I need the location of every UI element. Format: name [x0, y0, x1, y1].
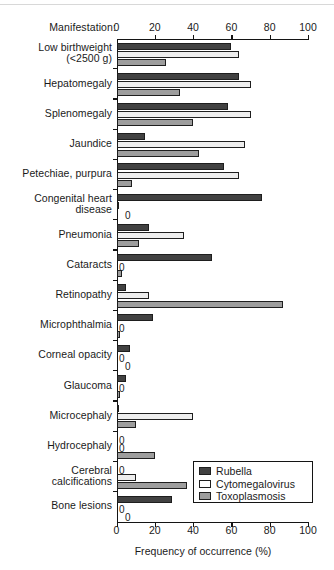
bar-rubella: [117, 496, 173, 503]
bar-toxo: [117, 59, 167, 66]
bottom-tick-mark-0: [117, 523, 118, 527]
top-tick-mark-20: [155, 35, 156, 39]
category-label: Pneumonia: [58, 229, 112, 241]
category-label: Microphthalmia: [40, 319, 112, 331]
category-label: Retinopathy: [55, 289, 112, 301]
zero-value-label: 0: [125, 513, 131, 523]
bar-rubella: [117, 375, 127, 382]
bar-rubella: [117, 163, 224, 170]
bottom-tick-mark-100: [308, 523, 309, 527]
bar-rubella: [117, 284, 127, 291]
top-tick-mark-100: [308, 35, 309, 39]
category-label: Congenital heart disease: [34, 193, 112, 216]
legend-swatch-cmv-icon: [199, 480, 211, 488]
group-separator-tick: [113, 219, 117, 220]
category-label: Cerebral calcifications: [52, 465, 112, 488]
bar-cmv: [117, 51, 240, 58]
group-separator-tick: [113, 189, 117, 190]
legend-item-cmv[interactable]: Cytomegalovirus: [199, 478, 312, 490]
bar-toxo: [117, 301, 284, 308]
bar-rubella: [117, 43, 232, 50]
bar-cmv: [117, 474, 136, 481]
top-axis-line: [117, 39, 310, 40]
category-label: Low birthweight (<2500 g): [38, 42, 112, 65]
bar-cmv: [117, 172, 240, 179]
top-tick-mark-80: [270, 35, 271, 39]
group-separator-tick: [113, 431, 117, 432]
legend-label: Toxoplasmosis: [216, 490, 286, 502]
category-label: Petechiae, purpura: [22, 168, 112, 180]
bottom-axis-line: [117, 522, 310, 523]
bar-rubella: [117, 103, 228, 110]
bar-chart: Manifestation: 020406080100 020406080100…: [0, 0, 334, 570]
group-separator-tick: [113, 461, 117, 462]
group-separator-tick: [113, 340, 117, 341]
top-tick-mark-60: [231, 35, 232, 39]
bar-toxo: [117, 270, 123, 277]
bar-rubella: [117, 314, 153, 321]
category-label: Cataracts: [67, 259, 112, 271]
category-label: Hydrocephaly: [47, 440, 112, 452]
x-axis-title-text: Frequency of occurrence (%): [135, 545, 272, 557]
bar-rubella: [117, 345, 130, 352]
bar-rubella: [117, 405, 119, 412]
bar-cmv: [117, 111, 251, 118]
group-separator-tick: [113, 98, 117, 99]
bottom-tick-mark-40: [193, 523, 194, 527]
bar-toxo: [117, 421, 136, 428]
bar-toxo: [117, 150, 199, 157]
bar-cmv: [117, 292, 150, 299]
bar-cmv: [117, 413, 194, 420]
bar-toxo: [117, 240, 140, 247]
bar-toxo: [117, 119, 194, 126]
bar-rubella: [117, 194, 263, 201]
group-separator-tick: [113, 68, 117, 69]
zero-value-label: 0: [119, 505, 125, 515]
bar-toxo: [117, 482, 188, 489]
legend-swatch-rubella-icon: [199, 467, 211, 475]
bar-rubella: [117, 254, 213, 261]
legend-label: Rubella: [216, 465, 252, 477]
category-label: Glaucoma: [64, 380, 112, 392]
category-label: Microcephaly: [50, 410, 112, 422]
bar-toxo: [117, 452, 155, 459]
group-separator-tick: [113, 249, 117, 250]
bar-rubella: [117, 224, 150, 231]
bar-cmv: [117, 232, 184, 239]
group-separator-tick: [113, 370, 117, 371]
category-label: Corneal opacity: [38, 349, 112, 361]
legend-item-rubella[interactable]: Rubella: [199, 465, 312, 477]
legend-item-toxo[interactable]: Toxoplasmosis: [199, 490, 312, 502]
bar-cmv: [117, 141, 245, 148]
bar-toxo: [117, 391, 121, 398]
group-separator-tick: [113, 491, 117, 492]
chart-legend: RubellaCytomegalovirusToxoplasmosis: [193, 461, 313, 503]
group-separator-tick: [113, 400, 117, 401]
bar-rubella: [117, 133, 146, 140]
bottom-tick-mark-20: [155, 523, 156, 527]
category-label: Bone lesions: [51, 500, 112, 512]
category-label: Splenomegaly: [45, 108, 112, 120]
x-axis-title: Frequency of occurrence (%): [0, 545, 334, 557]
zero-value-label: 0: [119, 354, 125, 364]
bar-rubella: [117, 73, 240, 80]
top-tick-mark-40: [193, 35, 194, 39]
zero-value-label: 0: [125, 362, 131, 372]
zero-value-label: 0: [125, 211, 131, 221]
group-separator-tick: [113, 159, 117, 160]
legend-swatch-toxo-icon: [199, 492, 211, 500]
category-label: Jaundice: [70, 138, 112, 150]
bar-toxo: [117, 180, 132, 187]
bar-cmv: [117, 81, 251, 88]
bar-toxo: [117, 331, 121, 338]
group-separator-tick: [113, 280, 117, 281]
group-separator-tick: [113, 310, 117, 311]
category-label: Hepatomegaly: [44, 78, 112, 90]
group-separator-tick: [113, 129, 117, 130]
bottom-tick-mark-80: [270, 523, 271, 527]
bottom-tick-mark-60: [231, 523, 232, 527]
bar-toxo: [117, 89, 180, 96]
legend-label: Cytomegalovirus: [216, 478, 295, 490]
bar-cmv: [117, 202, 119, 209]
